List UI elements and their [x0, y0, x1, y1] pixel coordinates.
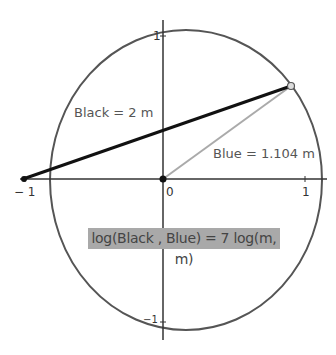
x-tick-label-minus-1: − 1 — [14, 185, 36, 199]
point-origin[interactable] — [160, 176, 167, 183]
x-tick-label-0: 0 — [166, 185, 174, 199]
point-on-circle[interactable] — [288, 83, 295, 90]
y-tick-label-1: 1 — [153, 29, 161, 43]
blue-length-label: Blue = 1.104 m — [213, 146, 315, 161]
x-tick-label-1: 1 — [302, 185, 310, 199]
geometry-canvas[interactable] — [0, 0, 336, 355]
circle[interactable] — [50, 30, 322, 330]
black-length-label: Black = 2 m — [74, 105, 153, 120]
blue-segment[interactable] — [163, 86, 291, 179]
y-tick-label-minus-1: −1 — [143, 314, 158, 325]
point-left[interactable] — [21, 176, 27, 182]
formula-label: log(Black , Blue) = 7 log(m, m) — [88, 228, 280, 249]
black-segment[interactable] — [23, 86, 291, 179]
